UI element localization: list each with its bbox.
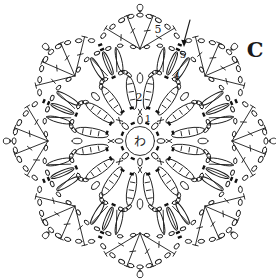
variant-label: C	[247, 37, 264, 62]
label-round-4: 4	[174, 70, 180, 81]
label-top-chain-count: 5	[155, 23, 162, 36]
motif-svg: C 5 5 4 2 1 わ	[0, 0, 276, 279]
magic-ring-label: わ	[134, 135, 146, 149]
label-round-5-start: 5	[180, 49, 186, 60]
label-round-2: 2	[136, 91, 143, 104]
label-round-1: 1	[145, 113, 151, 124]
crochet-chart: C 5 5 4 2 1 わ	[0, 0, 276, 279]
